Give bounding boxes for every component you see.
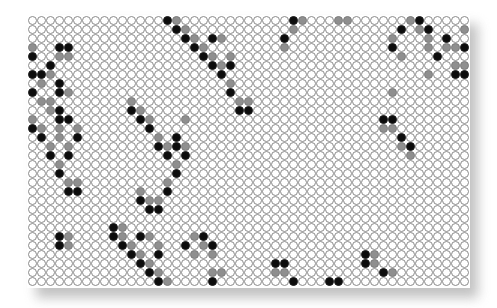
cell-empty[interactable] <box>253 277 262 286</box>
cell-empty[interactable] <box>109 268 118 277</box>
cell-empty[interactable] <box>343 259 352 268</box>
cell-empty[interactable] <box>244 88 253 97</box>
cell-empty[interactable] <box>280 214 289 223</box>
cell-empty[interactable] <box>244 52 253 61</box>
cell-empty[interactable] <box>91 214 100 223</box>
cell-empty[interactable] <box>46 250 55 259</box>
cell-empty[interactable] <box>298 250 307 259</box>
cell-empty[interactable] <box>91 106 100 115</box>
cell-empty[interactable] <box>415 79 424 88</box>
cell-empty[interactable] <box>37 214 46 223</box>
cell-black[interactable] <box>55 115 64 124</box>
cell-empty[interactable] <box>271 223 280 232</box>
cell-empty[interactable] <box>325 241 334 250</box>
cell-empty[interactable] <box>343 115 352 124</box>
cell-empty[interactable] <box>73 277 82 286</box>
cell-empty[interactable] <box>109 97 118 106</box>
cell-empty[interactable] <box>127 61 136 70</box>
cell-empty[interactable] <box>226 106 235 115</box>
cell-empty[interactable] <box>127 16 136 25</box>
cell-empty[interactable] <box>82 43 91 52</box>
cell-empty[interactable] <box>424 169 433 178</box>
cell-empty[interactable] <box>433 79 442 88</box>
cell-empty[interactable] <box>199 214 208 223</box>
cell-empty[interactable] <box>244 133 253 142</box>
cell-empty[interactable] <box>253 16 262 25</box>
cell-empty[interactable] <box>82 205 91 214</box>
cell-black[interactable] <box>55 88 64 97</box>
cell-empty[interactable] <box>64 250 73 259</box>
cell-black[interactable] <box>208 34 217 43</box>
cell-empty[interactable] <box>433 178 442 187</box>
cell-empty[interactable] <box>37 277 46 286</box>
cell-empty[interactable] <box>91 88 100 97</box>
cell-empty[interactable] <box>343 88 352 97</box>
cell-empty[interactable] <box>370 169 379 178</box>
cell-empty[interactable] <box>307 205 316 214</box>
cell-empty[interactable] <box>289 106 298 115</box>
cell-empty[interactable] <box>82 232 91 241</box>
cell-empty[interactable] <box>397 205 406 214</box>
cell-empty[interactable] <box>406 187 415 196</box>
cell-empty[interactable] <box>433 169 442 178</box>
cell-gray[interactable] <box>127 241 136 250</box>
cell-gray[interactable] <box>154 133 163 142</box>
cell-empty[interactable] <box>163 61 172 70</box>
cell-empty[interactable] <box>433 16 442 25</box>
cell-empty[interactable] <box>235 61 244 70</box>
cell-empty[interactable] <box>226 178 235 187</box>
cell-empty[interactable] <box>271 16 280 25</box>
cell-gray[interactable] <box>397 52 406 61</box>
cell-empty[interactable] <box>118 61 127 70</box>
cell-gray[interactable] <box>460 61 469 70</box>
cell-gray[interactable] <box>154 268 163 277</box>
cell-empty[interactable] <box>442 277 451 286</box>
cell-empty[interactable] <box>64 223 73 232</box>
cell-empty[interactable] <box>190 214 199 223</box>
cell-empty[interactable] <box>118 205 127 214</box>
cell-empty[interactable] <box>46 79 55 88</box>
cell-empty[interactable] <box>100 115 109 124</box>
cell-empty[interactable] <box>100 169 109 178</box>
cell-empty[interactable] <box>433 241 442 250</box>
cell-empty[interactable] <box>451 106 460 115</box>
cell-empty[interactable] <box>235 43 244 52</box>
cell-empty[interactable] <box>289 196 298 205</box>
cell-empty[interactable] <box>73 97 82 106</box>
cell-empty[interactable] <box>370 88 379 97</box>
cell-empty[interactable] <box>100 25 109 34</box>
cell-empty[interactable] <box>361 214 370 223</box>
cell-black[interactable] <box>64 151 73 160</box>
cell-empty[interactable] <box>127 43 136 52</box>
cell-empty[interactable] <box>28 178 37 187</box>
cell-empty[interactable] <box>127 70 136 79</box>
cell-gray[interactable] <box>136 250 145 259</box>
cell-empty[interactable] <box>91 34 100 43</box>
cell-empty[interactable] <box>433 142 442 151</box>
cell-empty[interactable] <box>451 169 460 178</box>
cell-empty[interactable] <box>334 142 343 151</box>
cell-empty[interactable] <box>316 241 325 250</box>
cell-black[interactable] <box>208 277 217 286</box>
cell-empty[interactable] <box>424 250 433 259</box>
cell-empty[interactable] <box>127 205 136 214</box>
cell-empty[interactable] <box>28 196 37 205</box>
cell-empty[interactable] <box>235 25 244 34</box>
cell-empty[interactable] <box>262 214 271 223</box>
cell-empty[interactable] <box>307 88 316 97</box>
cell-empty[interactable] <box>361 97 370 106</box>
cell-gray[interactable] <box>172 160 181 169</box>
cell-empty[interactable] <box>379 187 388 196</box>
cell-empty[interactable] <box>343 151 352 160</box>
cell-empty[interactable] <box>145 52 154 61</box>
cell-empty[interactable] <box>442 25 451 34</box>
cell-empty[interactable] <box>406 133 415 142</box>
cell-empty[interactable] <box>343 160 352 169</box>
cell-empty[interactable] <box>451 205 460 214</box>
cell-black[interactable] <box>37 70 46 79</box>
cell-empty[interactable] <box>361 277 370 286</box>
cell-empty[interactable] <box>388 25 397 34</box>
cell-empty[interactable] <box>109 115 118 124</box>
cell-empty[interactable] <box>379 232 388 241</box>
cell-empty[interactable] <box>91 16 100 25</box>
